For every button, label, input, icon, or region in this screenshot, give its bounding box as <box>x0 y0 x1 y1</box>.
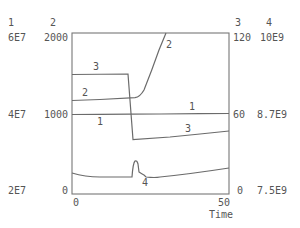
series-4-line <box>72 161 229 178</box>
x-tick-min: 0 <box>73 197 79 208</box>
series-2-label-b: 2 <box>166 39 172 50</box>
axis-2-id: 2 <box>50 17 56 28</box>
multi-axis-line-chart: 1 2 3 4 6E7 4E7 2E7 2000 1000 0 120 60 0… <box>0 0 300 228</box>
axis-3-tick-bottom: 0 <box>237 185 243 196</box>
axis-3-tick-top: 120 <box>233 32 251 43</box>
axis-1-id: 1 <box>8 17 14 28</box>
axis-4-tick-top: 10E9 <box>260 32 284 43</box>
series-1-line <box>72 114 229 115</box>
series-3-label-a: 3 <box>93 61 99 72</box>
axis-2-tick-top: 2000 <box>44 32 68 43</box>
axis-4-tick-bottom: 7.5E9 <box>257 185 287 196</box>
axis-1-tick-top: 6E7 <box>8 32 26 43</box>
series-2-label-a: 2 <box>82 87 88 98</box>
x-axis-label: Time <box>209 209 233 220</box>
axis-1-tick-bottom: 2E7 <box>8 185 26 196</box>
axis-3-tick-mid: 60 <box>233 109 245 120</box>
series-1-label-b: 1 <box>189 101 195 112</box>
axis-2-tick-mid: 1000 <box>44 109 68 120</box>
series-3-label-b: 3 <box>185 123 191 134</box>
axis-2-tick-bottom: 0 <box>62 185 68 196</box>
axis-4-tick-mid: 8.7E9 <box>257 109 287 120</box>
axis-4-id: 4 <box>266 17 272 28</box>
x-tick-max: 50 <box>218 197 230 208</box>
axis-1-tick-mid: 4E7 <box>8 109 26 120</box>
series-4-label: 4 <box>142 177 148 188</box>
axis-3-id: 3 <box>235 17 241 28</box>
series-1-label-a: 1 <box>97 116 103 127</box>
series-3-line <box>72 74 229 140</box>
